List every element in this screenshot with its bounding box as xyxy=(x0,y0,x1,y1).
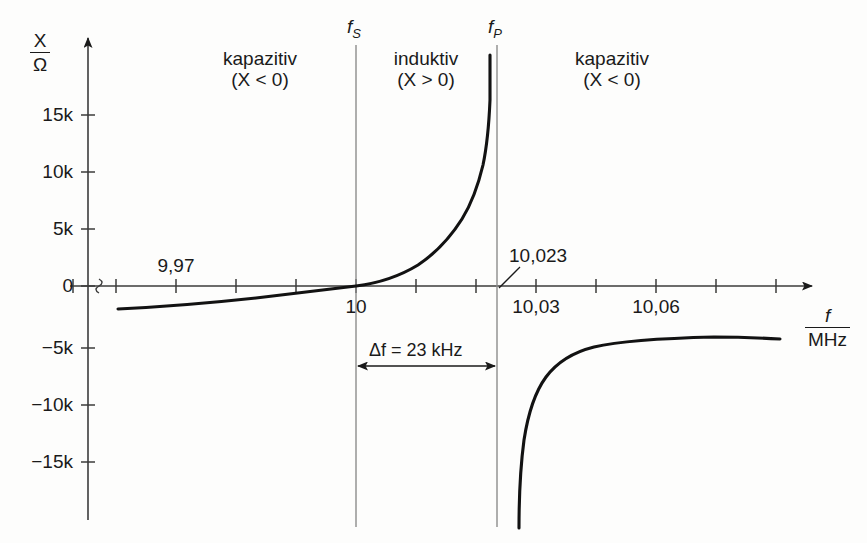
curve-capacitive-branch xyxy=(519,337,780,528)
region-label-capacitive-left: kapazitiv (X < 0) xyxy=(180,48,340,91)
y-axis-label: X Ω xyxy=(30,30,50,76)
region-label-capacitive-left-line1: kapazitiv xyxy=(180,48,340,69)
x-axis xyxy=(70,279,812,293)
y-tick-label-5k: 5k xyxy=(5,218,73,239)
x-tick-label-10-06: 10,06 xyxy=(616,296,696,317)
region-label-capacitive-right: kapazitiv (X < 0) xyxy=(532,48,692,91)
y-axis-label-denominator: Ω xyxy=(30,53,50,75)
delta-f-annotation: Δf = 23 kHz xyxy=(369,340,463,360)
fp-callout-leader-line xyxy=(499,267,520,288)
fp-marker-subscript: P xyxy=(493,26,502,41)
region-label-inductive-line1: induktiv xyxy=(362,48,490,69)
y-tick-label-minus-15k: −15k xyxy=(5,451,73,472)
y-tick-label-0: 0 xyxy=(5,275,73,296)
x-axis-label-numerator: f xyxy=(805,305,850,328)
y-tick-label-15k: 15k xyxy=(5,104,73,125)
x-axis-label-denominator: MHz xyxy=(805,328,850,350)
x-tick-label-10-03: 10,03 xyxy=(496,296,576,317)
x-tick-label-10: 10 xyxy=(326,296,386,317)
x-axis-label: f MHz xyxy=(805,305,850,351)
fs-marker-subscript: S xyxy=(352,26,361,41)
y-tick-label-minus-10k: −10k xyxy=(5,394,73,415)
region-label-inductive: induktiv (X > 0) xyxy=(362,48,490,91)
region-label-inductive-line2: (X > 0) xyxy=(362,69,490,90)
y-tick-label-minus-5k: −5k xyxy=(5,337,73,358)
x-tick-label-9-97: 9,97 xyxy=(136,255,216,276)
region-label-capacitive-right-line1: kapazitiv xyxy=(532,48,692,69)
reactance-frequency-chart: X Ω f MHz 15k 10k 5k 0 −5k −10k −15k 9,9… xyxy=(0,0,867,543)
y-axis xyxy=(81,38,95,520)
fp-callout-label: 10,023 xyxy=(509,245,567,266)
fp-marker-label: fP xyxy=(488,16,502,41)
y-tick-label-10k: 10k xyxy=(5,161,73,182)
fs-marker-label: fS xyxy=(347,16,361,41)
y-axis-label-numerator: X xyxy=(30,30,50,53)
region-label-capacitive-left-line2: (X < 0) xyxy=(180,69,340,90)
region-label-capacitive-right-line2: (X < 0) xyxy=(532,69,692,90)
